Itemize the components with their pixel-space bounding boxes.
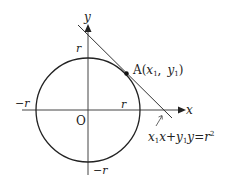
neg-x-intercept-label: −r: [15, 97, 30, 110]
pos-x-intercept-label: r: [121, 98, 127, 111]
origin-label: O: [76, 114, 86, 128]
point-a: [124, 71, 128, 75]
pointer-arrow: [156, 116, 162, 126]
point-a-label: A(x1,y1): [132, 63, 183, 78]
neg-y-intercept-label: −r: [93, 164, 108, 177]
diagram-canvas: y x O r −r r −r A(x1,y1) x1x+y1y=r2: [0, 0, 227, 188]
tangent-equation: x1x+y1y=r2: [148, 130, 214, 145]
x-axis-label: x: [186, 103, 193, 117]
y-axis-label: y: [83, 10, 91, 24]
x-axis-arrow-icon: [178, 107, 186, 114]
y-axis-arrow-icon: [85, 24, 92, 32]
pos-y-intercept-label: r: [76, 42, 82, 55]
